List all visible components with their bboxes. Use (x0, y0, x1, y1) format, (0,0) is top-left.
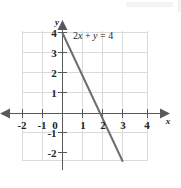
equation-constant: 4 (108, 30, 113, 41)
y-axis-label: y (54, 17, 60, 27)
equation-plus: + (85, 30, 91, 41)
y-tick-label-2: 2 (51, 67, 57, 79)
graph-figure: -2 -1 1 2 3 4 0 4 3 2 1 -1 -2 x y 2x+y=4 (0, 0, 181, 188)
x-tick-label-2: 2 (100, 119, 106, 131)
axis-lines (8, 22, 160, 170)
grid-lines (22, 31, 148, 161)
coordinate-plane-svg: -2 -1 1 2 3 4 0 4 3 2 1 -1 -2 x y 2x+y=4 (0, 0, 181, 188)
x-tick-label-3: 3 (120, 119, 126, 131)
x-tick-label-4: 4 (144, 119, 150, 131)
y-tick-label-1: 1 (51, 87, 57, 99)
equation-var-x: x (77, 30, 83, 41)
y-tick-label-3: 3 (51, 47, 57, 59)
equation-equals: = (100, 30, 106, 41)
y-tick-label-neg2: -2 (47, 147, 57, 159)
equation-annotation: 2x+y=4 (73, 30, 113, 41)
x-tick-label-neg1: -1 (37, 119, 46, 131)
scan-artifact-edge (178, 0, 181, 12)
scan-artifact (126, 2, 173, 7)
x-tick-label-neg2: -2 (17, 119, 27, 131)
equation-var-y: y (92, 30, 98, 41)
x-axis-arrow-left-icon (0, 109, 10, 119)
x-tick-label-1: 1 (80, 119, 86, 131)
y-tick-label-4: 4 (51, 27, 57, 39)
y-axis-arrow-up-icon (58, 20, 68, 30)
x-axis-label: x (165, 116, 171, 126)
y-tick-label-neg1: -1 (47, 127, 56, 139)
